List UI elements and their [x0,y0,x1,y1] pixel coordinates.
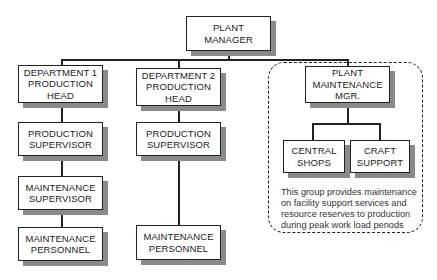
node-label: PLANT [332,67,363,79]
node-maintenance-personnel-2: MAINTENANCE PERSONNEL [136,225,221,260]
node-production-supervisor-1: PRODUCTION SUPERVISOR [18,122,103,156]
node-label: PRODUCTION [28,78,93,90]
connector-dept1-prodsup [61,103,63,123]
node-label: CENTRAL [291,145,336,157]
node-label: DEPARTMENT 1 [24,67,98,79]
connector-prodsup2-pers [178,155,180,226]
connector-horizontal-top [61,59,349,61]
node-label: PERSONNEL [31,244,91,256]
node-central-shops: CENTRAL SHOPS [283,140,345,173]
node-craft-support: CRAFT SUPPORT [350,140,410,173]
node-label: PRODUCTION [146,128,211,140]
node-label: MAINTENANCE [143,231,213,243]
node-label: SUPERVISOR [29,139,92,151]
node-label: PERSONNEL [149,243,209,255]
node-label: DEPARTMENT 2 [142,70,216,82]
node-label: PLANT [213,22,244,34]
node-label: SUPPORT [357,157,403,169]
note-line: This group provides maintenance [281,187,431,198]
connector-dept2-prodsup [178,106,180,123]
node-plant-manager: PLANT MANAGER [186,16,271,51]
node-label: HEAD [165,93,192,105]
node-label: PRODUCTION [146,81,211,93]
node-production-supervisor-2: PRODUCTION SUPERVISOR [136,122,221,156]
node-label: MAINTENANCE [25,182,95,194]
node-label: HEAD [47,90,74,102]
node-label: MAINTENANCE [312,79,382,91]
node-maintenance-personnel-1: MAINTENANCE PERSONNEL [18,227,103,261]
node-maintenance-supervisor: MAINTENANCE SUPERVISOR [18,176,103,210]
node-plant-maintenance-mgr: PLANT MAINTENANCE MGR. [305,66,390,103]
node-label: PRODUCTION [28,128,93,140]
connector-maintsup-pers [61,210,63,228]
node-label: MGR. [335,90,360,102]
node-label: MANAGER [204,34,253,46]
note-line: resource reserves to production [281,209,431,220]
node-label: MAINTENANCE [25,233,95,245]
note-line: on facility support services and [281,198,431,209]
node-label: CRAFT [364,145,396,157]
node-label: SHOPS [297,157,331,169]
node-label: SUPERVISOR [147,139,210,151]
note-line: during peak work load penods [281,220,431,231]
node-label: SUPERVISOR [29,193,92,205]
node-dept1-head: DEPARTMENT 1 PRODUCTION HEAD [18,65,103,103]
connector-prodsup-maintsup [61,155,63,177]
node-dept2-head: DEPARTMENT 2 PRODUCTION HEAD [136,68,221,106]
maintenance-group-note: This group provides maintenance on facil… [281,187,431,231]
